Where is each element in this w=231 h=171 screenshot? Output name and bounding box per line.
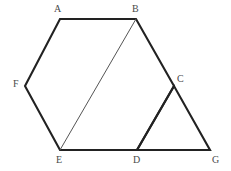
geometry-figure: A B C D E F G <box>0 0 231 171</box>
diagonal-be <box>60 19 136 150</box>
vertex-label-b: B <box>132 4 139 14</box>
vertex-label-f: F <box>13 79 19 89</box>
triangle-cdg-outline <box>137 86 210 150</box>
vertex-label-c: C <box>177 74 184 84</box>
vertex-label-e: E <box>56 155 62 165</box>
vertex-label-g: G <box>212 155 219 165</box>
figure-canvas <box>0 0 231 171</box>
vertex-label-a: A <box>54 4 61 14</box>
hexagon-outline <box>25 19 174 150</box>
vertex-label-d: D <box>133 155 140 165</box>
